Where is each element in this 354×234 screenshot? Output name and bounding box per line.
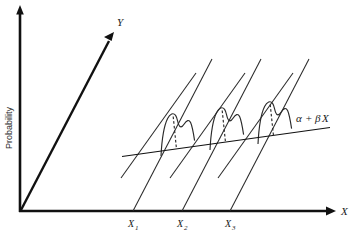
tick-label-x3: X 3 bbox=[224, 218, 236, 232]
dist-axis-line-3 bbox=[230, 59, 309, 211]
vertical-axis-label: Probability bbox=[4, 106, 14, 149]
svg-text:3: 3 bbox=[231, 224, 236, 232]
distribution-at-x1 bbox=[121, 59, 212, 211]
distribution-at-x3 bbox=[218, 59, 309, 211]
svg-text:α: α bbox=[296, 112, 302, 124]
horizontal-axis-label: X bbox=[340, 205, 349, 217]
mean-drop-line-2 bbox=[222, 111, 225, 142]
svg-text:X: X bbox=[127, 218, 135, 229]
bell-curve-1 bbox=[161, 114, 195, 156]
svg-text:X: X bbox=[321, 112, 330, 124]
vertical-axis-arrow bbox=[16, 5, 24, 15]
svg-text:β: β bbox=[314, 112, 321, 124]
svg-text:X: X bbox=[176, 218, 184, 229]
vertical-axis bbox=[16, 5, 24, 212]
depth-axis-label: Y bbox=[117, 16, 125, 28]
tick-label-x1: X 1 bbox=[127, 218, 139, 232]
bell-curve-3 bbox=[258, 102, 292, 144]
depth-axis bbox=[21, 32, 114, 210]
distribution-at-x2 bbox=[170, 59, 261, 211]
horizontal-axis-arrow bbox=[326, 207, 336, 216]
svg-text:2: 2 bbox=[184, 224, 188, 232]
regression-equation-label: α + β X bbox=[296, 112, 330, 124]
regression-line-group bbox=[122, 128, 330, 157]
horizontal-axis bbox=[19, 207, 336, 216]
regression-line bbox=[122, 128, 330, 157]
svg-text:+: + bbox=[305, 112, 312, 124]
depth-axis-arrow bbox=[104, 32, 114, 41]
regression-distribution-figure: Y X Probability X 1 X 2 X 3 α + β X bbox=[0, 0, 354, 234]
tick-label-x2: X 2 bbox=[176, 218, 188, 232]
svg-text:1: 1 bbox=[135, 224, 139, 232]
svg-text:X: X bbox=[224, 218, 232, 229]
